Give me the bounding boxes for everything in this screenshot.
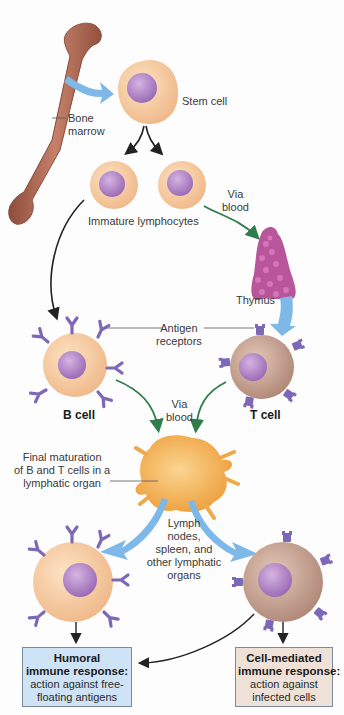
b-cell [31,318,122,407]
label-final-maturation: Final maturation of B and T cells in a l… [14,451,110,490]
label-thymus: Thymus [236,294,275,307]
immature-lymphocyte-1 [90,161,138,209]
diagram-art [0,0,344,715]
humoral-response-box: Humoral immune response: action against … [22,647,132,707]
mature-t-cell [232,531,333,632]
lymphocyte-diagram: Bone marrow Stem cell Immature lymphocyt… [0,0,344,715]
cell-mediated-response-box: Cell-mediated immune response: action ag… [235,647,333,707]
thymus-organ [251,227,295,300]
t-to-organ-arrow [196,382,226,428]
b-to-organ-arrow [116,380,158,428]
humoral-title: Humoral immune response: [25,652,129,678]
split-arrow-left [128,126,144,152]
label-lymph-nodes: Lymph nodes, spleen, and other lymphatic… [140,517,228,582]
label-t-cell: T cell [250,409,281,422]
label-bone-marrow: Bone marrow [68,112,105,138]
t-cell [219,324,305,409]
humoral-desc: action against free- floating antigens [25,678,129,704]
to-b-cell-arrow [51,200,84,316]
split-arrow-right [146,126,160,152]
label-b-cell: B cell [63,409,95,422]
label-immature-lymphocytes: Immature lymphocytes [88,215,199,228]
cell-mediated-desc: action against infected cells [238,678,330,704]
label-stem-cell: Stem cell [182,95,227,108]
label-via-blood-1: Via blood [222,188,249,214]
lymphatic-organ [136,435,238,518]
mature-b-cell [29,527,128,626]
immature-lymphocyte-2 [158,161,206,209]
cell-mediated-title: Cell-mediated immune response: [238,652,330,678]
stem-cell [118,60,178,124]
label-antigen-receptors: Antigen receptors [156,322,202,348]
label-via-blood-2: Via blood [166,398,193,424]
